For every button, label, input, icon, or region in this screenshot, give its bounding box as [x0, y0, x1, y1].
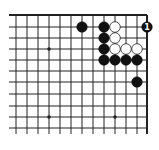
white-stone	[110, 44, 121, 55]
black-stone: 1	[142, 22, 153, 33]
white-stone	[110, 33, 121, 44]
black-stone	[99, 33, 110, 44]
white-stone	[110, 22, 121, 33]
grid-lines	[9, 15, 147, 134]
black-stone	[132, 55, 143, 66]
black-stone	[77, 22, 88, 33]
white-stone	[132, 44, 143, 55]
move-number-label: 1	[144, 23, 150, 32]
black-stone	[121, 55, 132, 66]
black-stone	[99, 22, 110, 33]
black-stone	[110, 55, 121, 66]
go-board: 1	[0, 0, 159, 150]
black-stone	[132, 77, 143, 88]
black-stone	[99, 44, 110, 55]
star-point	[47, 47, 51, 51]
star-point	[47, 115, 51, 119]
star-point	[113, 115, 117, 119]
black-stone	[99, 55, 110, 66]
white-stone	[121, 44, 132, 55]
